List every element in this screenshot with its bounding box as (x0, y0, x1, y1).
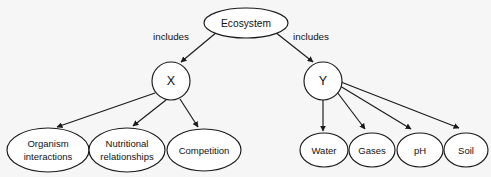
diagram-canvas: includes includes Ecosystem X Y Organism… (0, 0, 491, 177)
edge-x-to-nutritional-relationships (133, 100, 166, 126)
node-nutritional-relationships-label-line2: relationships (100, 151, 154, 162)
node-x-label: X (167, 74, 176, 88)
node-ecosystem[interactable]: Ecosystem (204, 8, 288, 38)
node-competition[interactable]: Competition (167, 129, 241, 171)
node-soil[interactable]: Soil (444, 133, 488, 167)
node-ph-label: pH (414, 145, 426, 156)
node-water[interactable]: Water (300, 133, 348, 167)
node-gases-label: Gases (358, 145, 386, 156)
node-nutritional-relationships[interactable]: Nutritional relationships (89, 128, 165, 172)
node-ecosystem-label: Ecosystem (221, 18, 271, 29)
node-x[interactable]: X (152, 62, 190, 100)
node-water-label: Water (312, 145, 337, 156)
node-competition-label: Competition (179, 145, 230, 156)
node-organism-interactions-label-line2: interactions (24, 151, 73, 162)
edge-x-to-competition (180, 99, 198, 127)
node-organism-interactions-label-line1: Organism (27, 138, 68, 149)
node-gases[interactable]: Gases (349, 133, 395, 167)
node-y[interactable]: Y (304, 62, 342, 100)
edge-group-y (323, 82, 459, 131)
node-y-label: Y (319, 74, 328, 88)
edge-label-includes-left: includes (153, 31, 189, 42)
edge-x-to-organism-interactions (57, 93, 155, 127)
node-organism-interactions[interactable]: Organism interactions (7, 128, 89, 172)
edge-label-includes-right: includes (293, 31, 329, 42)
node-ph[interactable]: pH (397, 133, 443, 167)
node-soil-label: Soil (458, 145, 474, 156)
edge-y-to-ph (340, 86, 411, 129)
concept-map-diagram: includes includes Ecosystem X Y Organism… (0, 0, 491, 177)
node-nutritional-relationships-label-line1: Nutritional (106, 138, 149, 149)
edge-y-to-gases (337, 92, 365, 129)
